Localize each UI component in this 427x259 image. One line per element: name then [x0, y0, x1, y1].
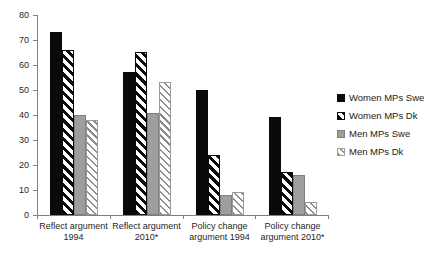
y-axis-tick [33, 65, 37, 66]
legend-marker-icon [337, 148, 345, 156]
legend-entry-women-mps-swe: Women MPs Swe [337, 92, 424, 103]
y-axis-tick [33, 140, 37, 141]
x-axis-tick [110, 215, 111, 219]
bar-men-mps-dk [232, 192, 244, 215]
y-axis-label: 80 [0, 10, 31, 20]
bar-men-mps-dk [159, 82, 171, 215]
bar-men-mps-swe [74, 115, 86, 215]
plot-area [37, 15, 329, 216]
legend-marker-icon [337, 94, 345, 102]
bar-men-mps-swe [220, 195, 232, 215]
bar-men-mps-dk [86, 120, 98, 215]
x-axis-tick [255, 215, 256, 219]
y-axis-label: 40 [0, 110, 31, 120]
y-axis-tick-labels: 01020304050607080 [0, 0, 31, 259]
bar-women-mps-swe [196, 90, 208, 215]
y-axis-tick [33, 115, 37, 116]
legend-marker-icon [337, 112, 345, 120]
bar-women-mps-swe [50, 32, 62, 215]
bar-women-mps-swe [269, 117, 281, 215]
category-label-3: Policy changeargument 1994 [183, 221, 256, 243]
bar-women-mps-dk [62, 50, 74, 215]
bar-chart: 01020304050607080 Reflect argument1994Re… [0, 0, 427, 259]
bar-women-mps-dk [281, 172, 293, 215]
y-axis-label: 50 [0, 85, 31, 95]
bar-groups [38, 15, 329, 215]
y-axis-tick [33, 40, 37, 41]
y-axis-label: 20 [0, 160, 31, 170]
bar-women-mps-swe [123, 72, 135, 215]
x-axis-tick [183, 215, 184, 219]
bar-group-3 [184, 90, 257, 215]
bar-group-2 [111, 52, 184, 215]
y-axis-label: 30 [0, 135, 31, 145]
legend-marker-icon [337, 130, 345, 138]
x-axis-tick [37, 215, 38, 219]
bar-men-mps-swe [147, 113, 159, 215]
bar-men-mps-swe [293, 175, 305, 215]
x-axis-tick [328, 215, 329, 219]
category-label-1: Reflect argument1994 [37, 221, 110, 243]
y-axis-tick [33, 90, 37, 91]
y-axis-tick [33, 15, 37, 16]
x-axis-category-labels: Reflect argument1994Reflect argument2010… [37, 221, 329, 243]
y-axis-label: 10 [0, 185, 31, 195]
bar-women-mps-dk [135, 52, 147, 215]
category-label-2: Reflect argument2010* [110, 221, 183, 243]
legend-label: Men MPs Swe [349, 128, 410, 139]
bar-women-mps-dk [208, 155, 220, 215]
y-axis-tick [33, 190, 37, 191]
legend-label: Men MPs Dk [349, 146, 403, 157]
y-axis-tick [33, 165, 37, 166]
bar-men-mps-dk [305, 202, 317, 215]
legend-entry-men-mps-dk: Men MPs Dk [337, 146, 424, 157]
legend-entry-women-mps-dk: Women MPs Dk [337, 110, 424, 121]
legend-entry-men-mps-swe: Men MPs Swe [337, 128, 424, 139]
y-axis-label: 60 [0, 60, 31, 70]
category-label-4: Policy changeargument 2010* [256, 221, 329, 243]
legend: Women MPs SweWomen MPs DkMen MPs SweMen … [337, 92, 424, 157]
bar-group-1 [38, 32, 111, 215]
y-axis-label: 0 [0, 210, 31, 220]
legend-label: Women MPs Swe [349, 92, 424, 103]
y-axis-label: 70 [0, 35, 31, 45]
legend-label: Women MPs Dk [349, 110, 417, 121]
bar-group-4 [256, 117, 329, 215]
